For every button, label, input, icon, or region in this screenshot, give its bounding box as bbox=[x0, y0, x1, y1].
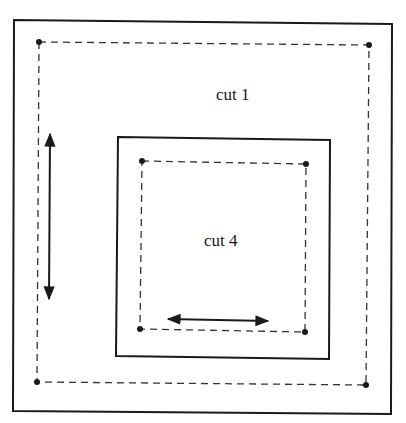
outer-cut-corner-dots bbox=[34, 39, 372, 388]
outer-cut-label: cut 1 bbox=[216, 85, 250, 104]
vertical-double-arrow-icon bbox=[49, 134, 50, 299]
outer-frame bbox=[13, 20, 392, 414]
horizontal-double-arrow-icon bbox=[168, 319, 268, 321]
outer-cut-path bbox=[37, 42, 369, 385]
cutting-diagram: cut 1 cut 4 bbox=[0, 0, 406, 423]
inner-cut-label: cut 4 bbox=[204, 231, 238, 250]
